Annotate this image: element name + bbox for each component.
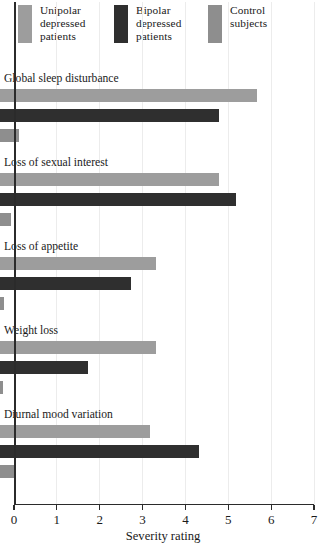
legend-label-unipolar-line-1: Unipolar — [40, 4, 85, 17]
bar — [0, 445, 199, 458]
x-tick-label-4: 4 — [175, 512, 195, 527]
category-label: Global sleep disturbance — [4, 72, 119, 85]
bar-group: Loss of appetite — [0, 240, 300, 317]
x-tick-1 — [56, 505, 57, 510]
x-tick-label-0: 0 — [4, 512, 24, 527]
legend-label-unipolar-line-3: patients — [40, 30, 85, 43]
x-tick-label-3: 3 — [133, 512, 153, 527]
x-tick-7 — [313, 505, 314, 510]
x-tick-label-2: 2 — [90, 512, 110, 527]
bar-group: Global sleep disturbance — [0, 72, 300, 149]
x-tick-2 — [99, 505, 100, 510]
legend-swatch-bipolar — [114, 5, 128, 43]
bar — [0, 129, 19, 142]
bar — [0, 257, 156, 270]
bar-group: Weight loss — [0, 324, 300, 401]
legend-label-control-line-2: subjects — [230, 17, 267, 30]
bar-group: Loss of sexual interest — [0, 156, 300, 233]
x-axis-line — [14, 504, 314, 506]
legend-item-bipolar: Bipolar depressed patients — [114, 4, 181, 44]
bar — [0, 109, 219, 122]
bar — [0, 425, 150, 438]
legend-swatch-control — [208, 5, 222, 43]
legend-label-unipolar: Unipolar depressed patients — [40, 4, 85, 44]
x-tick-label-5: 5 — [218, 512, 238, 527]
bar — [0, 341, 156, 354]
legend-label-control-line-1: Control — [230, 4, 267, 17]
bar — [0, 381, 3, 394]
bar — [0, 193, 236, 206]
x-tick-4 — [185, 505, 186, 510]
x-tick-3 — [142, 505, 143, 510]
legend-label-control: Control subjects — [230, 4, 267, 30]
category-label: Loss of sexual interest — [4, 156, 108, 169]
x-axis-title: Severity rating — [0, 529, 326, 544]
legend-item-control: Control subjects — [208, 4, 267, 43]
category-label: Weight loss — [4, 324, 58, 337]
bar-group: Diurnal mood variation — [0, 408, 300, 485]
legend-swatch-unipolar — [18, 5, 32, 43]
x-tick-label-7: 7 — [304, 512, 324, 527]
x-tick-0 — [13, 505, 14, 510]
bar — [0, 173, 219, 186]
category-label: Diurnal mood variation — [4, 408, 113, 421]
bar — [0, 213, 11, 226]
x-tick-6 — [271, 505, 272, 510]
legend-label-unipolar-line-2: depressed — [40, 17, 85, 30]
bar — [0, 277, 131, 290]
chart-legend: Unipolar depressed patients Bipolar depr… — [18, 4, 318, 52]
gridline-7 — [314, 2, 315, 505]
bar — [0, 297, 4, 310]
legend-item-unipolar: Unipolar depressed patients — [18, 4, 85, 44]
bar — [0, 89, 257, 102]
x-tick-5 — [228, 505, 229, 510]
x-tick-label-6: 6 — [261, 512, 281, 527]
chart-figure: Unipolar depressed patients Bipolar depr… — [0, 0, 326, 550]
y-axis-line — [14, 2, 16, 505]
x-tick-label-1: 1 — [47, 512, 67, 527]
